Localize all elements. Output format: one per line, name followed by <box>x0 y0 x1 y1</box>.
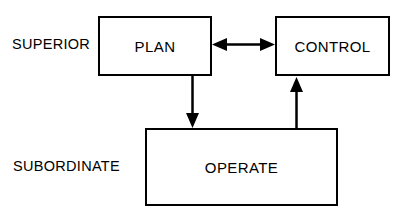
arrowhead-right-icon <box>260 38 275 51</box>
diagram-canvas: SUPERIOR SUBORDINATE PLAN CONTROL OPERAT… <box>0 0 401 222</box>
connector-operate-control <box>290 77 303 128</box>
tier-label-subordinate: SUBORDINATE <box>13 159 120 174</box>
node-control[interactable]: CONTROL <box>275 16 390 76</box>
node-control-label: CONTROL <box>294 39 370 54</box>
connector-plan-operate <box>186 76 199 128</box>
node-operate[interactable]: OPERATE <box>145 128 338 206</box>
arrowhead-up-icon <box>290 77 303 92</box>
arrowhead-left-icon <box>212 38 227 51</box>
arrowhead-down-icon <box>186 113 199 128</box>
node-plan-label: PLAN <box>135 39 176 54</box>
connector-plan-control <box>212 38 275 51</box>
tier-label-superior: SUPERIOR <box>12 37 90 52</box>
node-plan[interactable]: PLAN <box>98 16 212 76</box>
node-operate-label: OPERATE <box>205 160 278 175</box>
